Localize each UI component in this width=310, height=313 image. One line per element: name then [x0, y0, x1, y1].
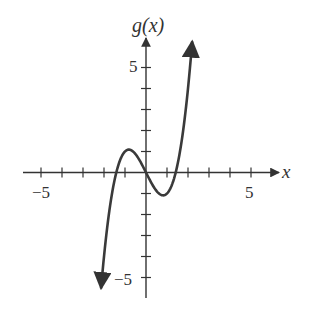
function-graph: g(x) x −5 5 5 −5 — [0, 0, 310, 313]
x-tick-label-5: 5 — [245, 183, 254, 202]
y-tick-label-5: 5 — [129, 57, 138, 76]
x-axis-label: x — [281, 161, 291, 182]
y-axis-label: g(x) — [132, 14, 165, 37]
y-tick-label-neg5: −5 — [114, 270, 132, 289]
x-tick-label-neg5: −5 — [32, 183, 50, 202]
